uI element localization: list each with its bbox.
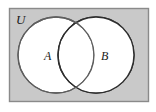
venn-diagram-figure: U A B — [0, 0, 156, 112]
venn-diagram-canvas: U A B — [0, 0, 156, 112]
set-b-label: B — [101, 49, 109, 63]
set-a-label: A — [43, 49, 52, 63]
universal-set-label: U — [16, 12, 27, 27]
